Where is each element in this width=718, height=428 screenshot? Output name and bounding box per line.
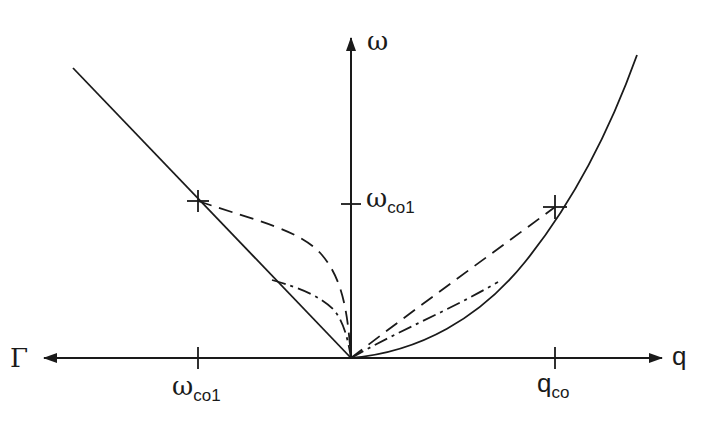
tick-subscript: co [551, 383, 569, 402]
tick-subscript: co1 [193, 386, 220, 405]
right-tick-label: qco [537, 368, 569, 399]
tick-symbol: ω [172, 371, 193, 401]
left-linear-solid-curve [73, 68, 351, 358]
left-crossover-marker [187, 190, 209, 212]
right-dashed-curve [351, 207, 555, 358]
horizontal-axis-left-label: Γ [10, 343, 28, 373]
horizontal-axis-right-label: q [672, 341, 686, 372]
left-tick-label: ωco1 [172, 371, 221, 401]
right-dash-dot-curve [351, 282, 498, 358]
tick-subscript: co1 [387, 198, 414, 217]
vertical-axis-label: ω [367, 26, 388, 56]
right-crossover-marker [543, 195, 567, 219]
vertical-tick-label: ωco1 [366, 183, 415, 213]
tick-symbol: q [537, 368, 551, 398]
dispersion-diagram [0, 0, 718, 428]
tick-symbol: ω [366, 183, 387, 213]
